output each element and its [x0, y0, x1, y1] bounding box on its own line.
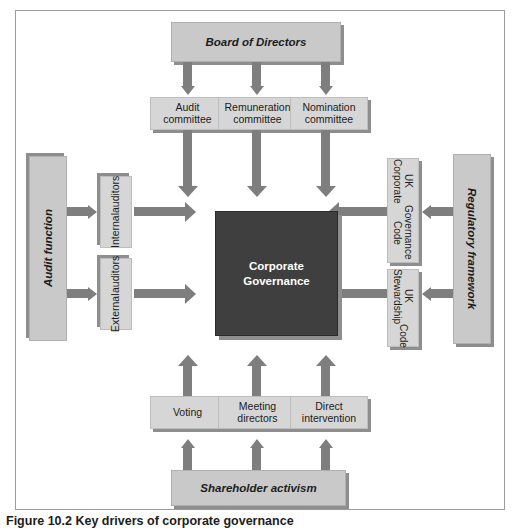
node-label: Shareholder activism [200, 482, 316, 495]
node-label-line1: Nomination [302, 102, 355, 114]
node-label-line1: Meeting [239, 401, 276, 413]
core-label-line1: Corporate [243, 259, 309, 273]
node-label: Internal [110, 213, 122, 248]
node-label: External [110, 293, 122, 332]
node-label-line2: auditors [110, 256, 122, 293]
core-label-line2: Governance [243, 274, 309, 288]
node-label-line2: committee [163, 114, 211, 126]
node-label: UK Corporate [392, 159, 414, 203]
node-remuneration-committee[interactable]: Remuneration committee [218, 97, 297, 130]
node-label-line2: intervention [302, 413, 356, 425]
node-board-of-directors[interactable]: Board of Directors [171, 22, 341, 62]
node-audit-function[interactable]: Audit function [29, 156, 67, 341]
node-nomination-committee[interactable]: Nomination committee [290, 97, 368, 130]
node-label-line2: committee [233, 114, 281, 126]
node-uk-corporate-governance-code[interactable]: UK Corporate Governance Code [387, 158, 419, 263]
node-audit-committee[interactable]: Audit committee [150, 97, 225, 130]
node-direct-intervention[interactable]: Direct intervention [290, 396, 368, 429]
node-label-line1: Direct [315, 401, 342, 413]
node-label-line2: committee [305, 114, 353, 126]
node-label: Board of Directors [206, 36, 307, 49]
node-label-line2: auditors [110, 176, 122, 213]
node-external-auditors[interactable]: External auditors [100, 258, 132, 330]
figure-caption: Figure 10.2 Key drivers of corporate gov… [6, 514, 519, 528]
node-meeting-directors[interactable]: Meeting directors [218, 396, 297, 429]
node-label-line2: Governance Code [392, 203, 414, 262]
node-label-line2: Code [397, 324, 408, 348]
node-uk-stewardship-code[interactable]: UK Stewardship Code [387, 269, 419, 347]
node-label: Regulatory framework [466, 188, 479, 309]
node-label-line1: Audit [176, 102, 200, 114]
node-regulatory-framework[interactable]: Regulatory framework [453, 154, 491, 344]
node-label-line1: Voting [173, 407, 202, 419]
node-label-line1: Remuneration [225, 102, 291, 114]
node-voting[interactable]: Voting [150, 396, 225, 429]
node-internal-auditors[interactable]: Internal auditors [100, 176, 132, 248]
node-corporate-governance[interactable]: Corporate Governance [215, 211, 338, 336]
diagram-frame: Board of Directors Audit committee Remun… [15, 10, 505, 510]
node-label: UK Stewardship [392, 269, 414, 324]
node-label: Audit function [42, 210, 55, 288]
node-label-line2: directors [237, 413, 277, 425]
node-shareholder-activism[interactable]: Shareholder activism [171, 470, 346, 506]
